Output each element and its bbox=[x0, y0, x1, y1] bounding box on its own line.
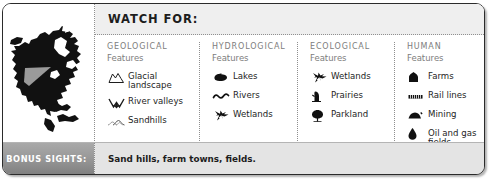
glacial-landscape-icon bbox=[107, 70, 128, 85]
legend-item-label: Farms bbox=[428, 70, 454, 82]
legend-item-label: Glacial landscape bbox=[128, 70, 172, 91]
legend-item-label: Prairies bbox=[331, 89, 363, 101]
column-subtitle: Features bbox=[212, 53, 293, 64]
column-title: HYDROLOGICAL bbox=[212, 42, 293, 53]
column-subtitle: Features bbox=[310, 53, 390, 64]
wetlands-icon bbox=[310, 70, 331, 85]
feature-column-ecological: ECOLOGICAL Features Wetlands bbox=[297, 42, 394, 145]
bonus-sights-text: Sand hills, farm towns, fields. bbox=[108, 154, 256, 164]
legend-item-label: Wetlands bbox=[233, 108, 273, 120]
column-title: ECOLOGICAL bbox=[310, 42, 390, 53]
legend-item: Mining bbox=[407, 108, 485, 123]
feature-column-human: HUMAN Features Farms bbox=[394, 42, 485, 145]
card-upper-section: WATCH FOR: GEOLOGICAL Features Glacial l… bbox=[3, 4, 484, 145]
bonus-sights-label: BONUS SIGHTS: bbox=[6, 154, 87, 164]
mining-icon bbox=[407, 108, 428, 123]
column-subtitle: Features bbox=[407, 53, 485, 64]
legend-item-label: Parkland bbox=[331, 108, 368, 120]
legend-item-label: Wetlands bbox=[331, 70, 371, 82]
legend-item: Rivers bbox=[212, 89, 293, 104]
bonus-sights-label-cell: BONUS SIGHTS: bbox=[3, 143, 94, 174]
legend-item: Wetlands bbox=[310, 70, 390, 85]
legend-item: Farms bbox=[407, 70, 485, 85]
rail-lines-icon bbox=[407, 89, 428, 104]
legend-item: Rail lines bbox=[407, 89, 485, 104]
column-subtitle: Features bbox=[107, 53, 195, 64]
legend-item-label: Lakes bbox=[233, 70, 258, 82]
lakes-icon bbox=[212, 70, 233, 85]
legend-item-label: Sandhills bbox=[128, 114, 167, 126]
farms-icon bbox=[407, 70, 428, 85]
feature-column-hydrological: HYDROLOGICAL Features Lakes bbox=[199, 42, 297, 145]
prairies-icon bbox=[310, 89, 331, 104]
legend-item-label: Rail lines bbox=[428, 89, 467, 101]
watch-for-panel: WATCH FOR: GEOLOGICAL Features Glacial l… bbox=[94, 4, 485, 145]
legend-item: River valleys bbox=[107, 95, 195, 110]
rivers-icon bbox=[212, 89, 233, 104]
map-cell bbox=[3, 4, 94, 145]
legend-item-label: Mining bbox=[428, 108, 457, 120]
watch-for-header: WATCH FOR: bbox=[95, 4, 485, 35]
bonus-sights-bar: BONUS SIGHTS: Sand hills, farm towns, fi… bbox=[3, 142, 484, 174]
sandhills-icon bbox=[107, 114, 128, 129]
legend-item: Parkland bbox=[310, 108, 390, 123]
parkland-icon bbox=[310, 108, 331, 123]
legend-item: Glacial landscape bbox=[107, 70, 195, 91]
column-title: HUMAN bbox=[407, 42, 485, 53]
legend-item-label: River valleys bbox=[128, 95, 183, 107]
legend-item: Wetlands bbox=[212, 108, 293, 123]
legend-item: Sandhills bbox=[107, 114, 195, 129]
legend-item-label: Rivers bbox=[233, 89, 260, 101]
column-title: GEOLOGICAL bbox=[107, 42, 195, 53]
bonus-sights-content-cell: Sand hills, farm towns, fields. bbox=[94, 143, 484, 174]
oil-and-gas-icon bbox=[407, 127, 428, 142]
river-valleys-icon bbox=[107, 95, 128, 110]
legend-item: Prairies bbox=[310, 89, 390, 104]
wetlands-icon bbox=[212, 108, 233, 123]
legend-item: Lakes bbox=[212, 70, 293, 85]
watch-for-card: WATCH FOR: GEOLOGICAL Features Glacial l… bbox=[2, 3, 485, 175]
feature-column-geological: GEOLOGICAL Features Glacial landscape bbox=[95, 42, 199, 145]
feature-columns: GEOLOGICAL Features Glacial landscape bbox=[95, 35, 485, 145]
north-america-map-icon bbox=[7, 10, 91, 140]
watch-for-title: WATCH FOR: bbox=[108, 12, 198, 26]
